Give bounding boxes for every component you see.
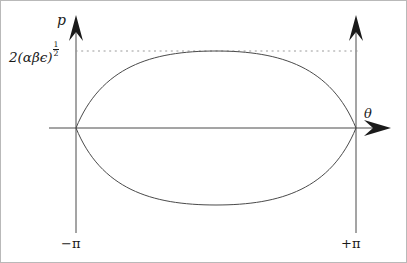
plot-canvas (1, 1, 407, 263)
separatrix-lower-curve (76, 128, 356, 205)
exponent-denominator: 2 (53, 50, 60, 58)
p-axis (69, 15, 83, 233)
separatrix-upper-curve (76, 51, 356, 128)
amplitude-tick-exponent: 12 (53, 41, 60, 58)
theta-axis-label: θ (364, 107, 372, 120)
x-tick-label-negative-pi: −π (61, 237, 80, 250)
amplitude-tick-label: 2(αβϵ)12 (9, 42, 59, 65)
right-boundary-axis (349, 15, 363, 233)
theta-axis (49, 120, 391, 136)
separatrix-figure: p θ 2(αβϵ)12 −π +π (0, 0, 407, 263)
amplitude-tick-base: 2(αβϵ) (9, 49, 53, 65)
x-tick-label-positive-pi: +π (341, 237, 360, 250)
p-axis-label: p (57, 13, 66, 27)
